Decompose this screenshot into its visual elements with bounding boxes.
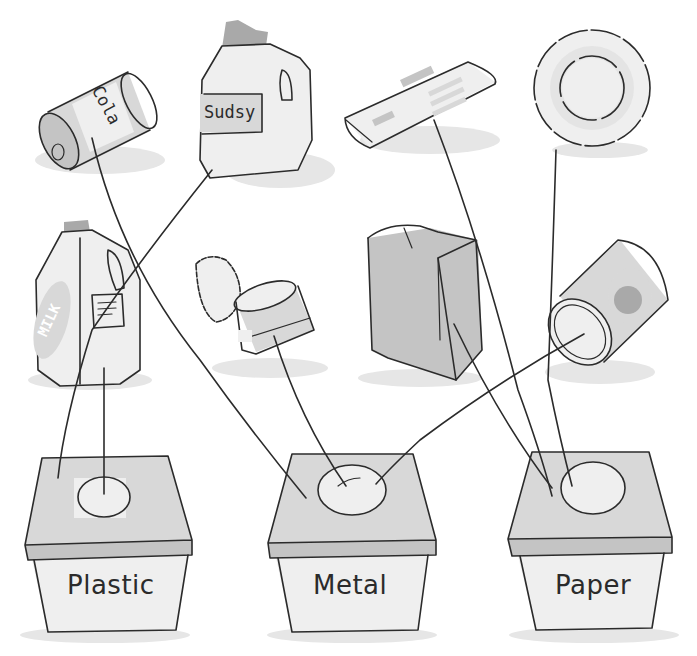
- bin-label-plastic: Plastic: [67, 570, 155, 600]
- item-newspaper: [345, 62, 500, 154]
- item-tuna-can: [196, 257, 328, 378]
- item-paper-bag: [358, 225, 482, 387]
- bin-paper: [508, 452, 679, 643]
- recycling-sort-diagram: Cola Sudsy MILK Plastic Metal Paper: [0, 0, 697, 656]
- bin-label-metal: Metal: [313, 570, 387, 600]
- bin-label-paper: Paper: [555, 570, 631, 600]
- item-food-can: [535, 240, 668, 384]
- item-paper-plate: [534, 30, 650, 158]
- item-milk-jug: [26, 220, 152, 390]
- sudsy-label: Sudsy: [204, 102, 255, 122]
- bin-plastic: [20, 456, 192, 643]
